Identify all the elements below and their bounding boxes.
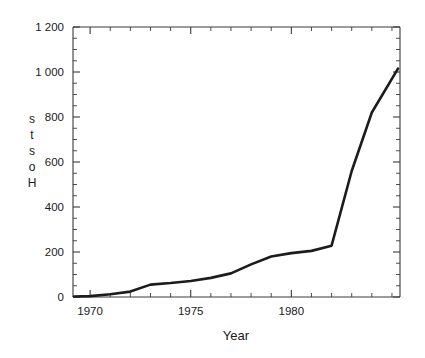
y-tick-label: 1 000 xyxy=(35,66,64,78)
x-axis-title: Year xyxy=(223,328,250,343)
x-tick-label: 1980 xyxy=(279,305,305,317)
x-tick-label: 1970 xyxy=(77,305,103,317)
x-tick-label: 1975 xyxy=(178,305,204,317)
y-tick-label: 200 xyxy=(45,246,64,258)
y-axis-title-char: H xyxy=(28,176,37,190)
y-tick-label: 800 xyxy=(45,111,64,123)
y-tick-label: 600 xyxy=(45,156,64,168)
y-tick-label: 0 xyxy=(58,291,64,303)
hosts-vs-year-line-chart: 02004006008001 0001 200 197019751980 sts… xyxy=(0,0,425,358)
y-axis-title-char: s xyxy=(29,144,35,158)
y-tick-label: 1 200 xyxy=(35,21,64,33)
y-tick-label: 400 xyxy=(45,201,64,213)
chart-figure: 02004006008001 0001 200 197019751980 sts… xyxy=(0,0,425,358)
chart-background xyxy=(0,0,425,358)
y-axis-title-char: o xyxy=(29,160,36,174)
y-axis-title-char: s xyxy=(29,112,35,126)
